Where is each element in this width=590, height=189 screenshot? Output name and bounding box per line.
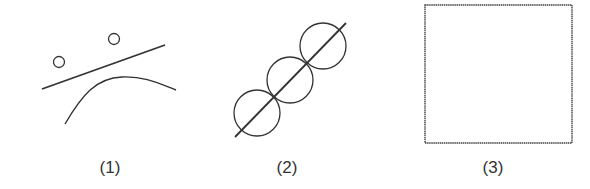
figure-1 <box>42 34 176 125</box>
small-circle-left <box>54 57 65 68</box>
small-circle-right <box>109 34 120 45</box>
diagonal-line <box>235 23 346 137</box>
curve <box>65 77 176 124</box>
figure-3-label: (3) <box>483 158 504 178</box>
figure-2 <box>234 23 346 137</box>
figure-2-label: (2) <box>277 158 298 178</box>
figure-3 <box>425 5 572 143</box>
square <box>425 5 572 143</box>
figure-1-label: (1) <box>100 158 121 178</box>
